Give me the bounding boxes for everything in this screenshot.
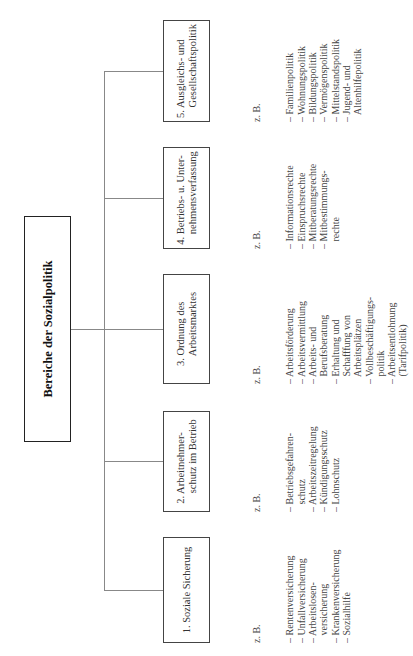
examples-list-4: z. B. – Informationsrechte – Einspruchsr… (228, 164, 364, 249)
category-box-soziale-sicherung: 1. Soziale Sicherung (163, 537, 210, 643)
examples-heading: z. B. (251, 39, 262, 122)
category-label: 2. Arbeitnehmer- schutz im Betrieb (175, 419, 199, 504)
category-box-arbeitnehmerschutz: 2. Arbeitnehmer- schutz im Betrieb (163, 411, 210, 512)
branch-connector-5 (104, 71, 163, 72)
examples-items: – Rentenversicherung – Unfallversicherun… (284, 549, 352, 643)
spine-connector (104, 71, 105, 591)
category-box-betriebsverfassung: 4. Betriebs- u. Unter- nehmensverfassung (163, 147, 210, 249)
category-box-arbeitsmarkt: 3. Ordnung des Arbeitsmarktes (163, 274, 210, 384)
examples-items: – Familienpolitik – Wohnungspolitik – Bi… (284, 39, 363, 122)
branch-connector-2 (104, 461, 163, 462)
branch-connector-4 (104, 198, 163, 199)
root-connector (71, 329, 104, 330)
root-box: Bereiche der Sozialpolitik (24, 216, 71, 442)
category-label: 4. Betriebs- u. Unter- nehmensverfassung (175, 151, 199, 244)
root-title: Bereiche der Sozialpolitik (42, 260, 54, 397)
examples-list-1: z. B. – Rentenversicherung – Unfallversi… (228, 549, 375, 643)
examples-heading: z. B. (251, 297, 262, 384)
examples-list-3: z. B. – Arbeitsförderung – Arbeitsvermit… (228, 297, 413, 384)
branch-connector-3 (104, 329, 163, 330)
category-label: 3. Ordnung des Arbeitsmarktes (175, 292, 199, 366)
examples-list-2: z. B. – Betriebsgefahren- schutz – Arbei… (228, 426, 364, 512)
examples-items: – Informationsrechte – Einspruchsrechte … (284, 164, 340, 249)
examples-heading: z. B. (251, 426, 262, 512)
branch-connector-1 (104, 590, 163, 591)
examples-items: – Betriebsgefahren- schutz – Arbeitszeit… (284, 426, 340, 512)
examples-heading: z. B. (251, 549, 262, 643)
examples-heading: z. B. (251, 164, 262, 249)
examples-list-5: z. B. – Familienpolitik – Wohnungspoliti… (228, 39, 386, 122)
category-box-gesellschaftspolitik: 5. Ausgleichs- und Gesellschaftspolitik (163, 20, 210, 122)
examples-items: – Arbeitsförderung – Arbeitsvermittlung … (284, 297, 408, 384)
category-label: 5. Ausgleichs- und Gesellschaftspolitik (175, 24, 199, 118)
category-label: 1. Soziale Sicherung (181, 547, 193, 634)
